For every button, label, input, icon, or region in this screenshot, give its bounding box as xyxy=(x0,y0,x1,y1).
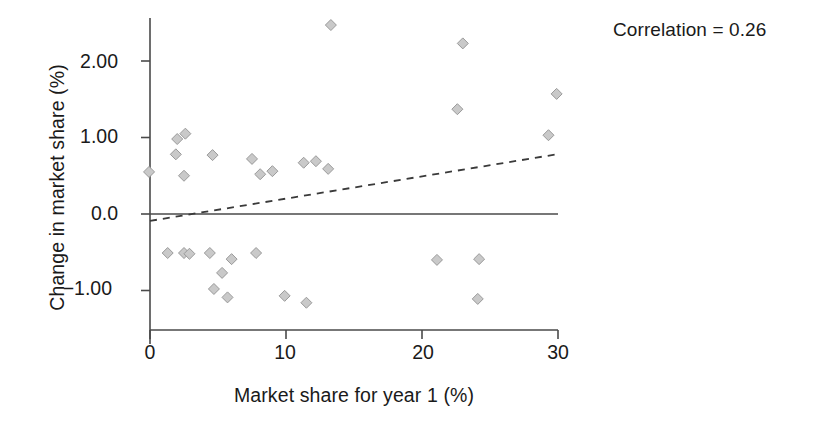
data-point-marker xyxy=(323,163,334,174)
data-point-marker xyxy=(251,248,262,259)
data-point-marker xyxy=(217,267,228,278)
data-point-marker xyxy=(457,38,468,49)
data-point-marker xyxy=(431,254,442,265)
data-point-marker xyxy=(452,104,463,115)
data-point-marker xyxy=(474,254,485,265)
plot-area xyxy=(0,0,814,435)
data-point-marker xyxy=(207,150,218,161)
data-point-marker xyxy=(325,20,336,31)
data-point-marker xyxy=(144,166,155,177)
trend-line xyxy=(150,154,557,221)
scatter-chart-figure: Correlation = 0.26 Change in market shar… xyxy=(0,0,814,435)
data-point-marker xyxy=(298,157,309,168)
data-point-marker xyxy=(472,293,483,304)
data-point-marker xyxy=(247,153,258,164)
data-point-marker xyxy=(226,254,237,265)
data-point-marker xyxy=(208,283,219,294)
data-point-marker xyxy=(222,292,233,303)
x-axis-ticks xyxy=(150,330,558,339)
data-point-marker xyxy=(162,248,173,259)
data-point-marker xyxy=(551,88,562,99)
data-point-marker xyxy=(255,169,266,180)
data-point-marker xyxy=(543,130,554,141)
data-point-marker xyxy=(267,166,278,177)
data-point-marker xyxy=(301,297,312,308)
data-point-marker xyxy=(170,149,181,160)
data-point-marker xyxy=(279,290,290,301)
data-point-marker xyxy=(310,156,321,167)
data-point-marker xyxy=(204,248,215,259)
data-point-marker xyxy=(179,170,190,181)
axes-group xyxy=(141,18,558,344)
